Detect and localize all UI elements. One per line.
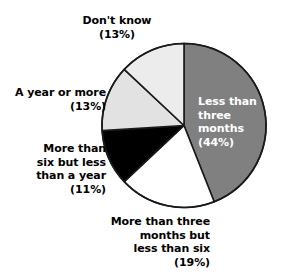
slice-label-less-than-three-months: Less than three months (44%) (198, 95, 272, 149)
pie-chart-figure: Don't know (13%) A year or more (13%) Mo… (0, 0, 282, 279)
slice-label-three-to-six-months: More than three months but less than six… (76, 215, 210, 269)
slice-label-dont-know: Don't know (13%) (56, 14, 178, 41)
slice-label-six-months-to-year: More than six but less than a year (11%) (0, 142, 106, 196)
slice-label-a-year-or-more: A year or more (13%) (0, 86, 106, 113)
